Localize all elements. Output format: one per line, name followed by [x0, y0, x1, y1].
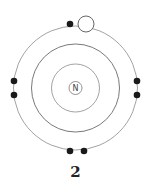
- bohr-diagram: N 2: [0, 0, 151, 185]
- electron: [67, 148, 74, 155]
- nucleus-label: N: [73, 84, 79, 93]
- electron: [134, 78, 141, 85]
- caption: 2: [0, 163, 151, 181]
- electron: [81, 148, 88, 155]
- electron: [134, 92, 141, 99]
- atom-model: N: [0, 0, 151, 185]
- electron: [11, 92, 18, 99]
- electron: [67, 21, 74, 28]
- electron: [11, 78, 18, 85]
- empty-electron-slot: [78, 16, 94, 32]
